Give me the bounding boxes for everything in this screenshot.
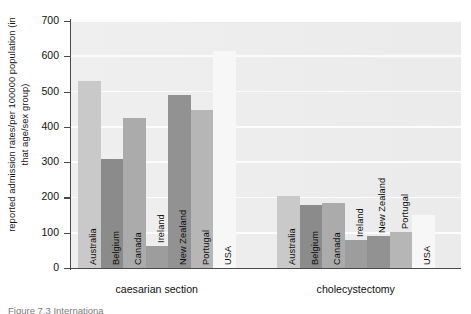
figure-caption: Figure 7.3 Internationa: [8, 305, 104, 314]
bar[interactable]: [101, 159, 124, 268]
bar-category-label: New Zealand: [377, 178, 387, 233]
bar[interactable]: [322, 203, 345, 268]
group-label-caesarian-section: caesarian section: [57, 283, 257, 295]
x-axis-line: [70, 268, 461, 269]
bar[interactable]: [191, 110, 214, 268]
gridline: [71, 20, 461, 22]
group-label-cholecystectomy: cholecystectomy: [256, 283, 456, 295]
y-axis-tick-label: 100: [19, 226, 59, 238]
bar[interactable]: [123, 118, 146, 268]
y-axis-tick-label: 400: [19, 120, 59, 132]
bar-category-label: Portugal: [400, 194, 410, 229]
y-axis-tick: [64, 21, 70, 22]
plot-area: AustraliaBelgiumCanadaIrelandNew Zealand…: [71, 21, 461, 268]
y-axis-tick: [64, 92, 70, 93]
y-axis-tick: [64, 162, 70, 163]
y-axis-tick: [64, 127, 70, 128]
figure-container: reported admission rates/per 100000 popu…: [0, 0, 471, 314]
y-axis-line: [70, 19, 71, 270]
bar[interactable]: [390, 232, 413, 268]
bar[interactable]: [300, 205, 323, 268]
gridline: [71, 91, 461, 93]
y-axis-tick: [64, 233, 70, 234]
y-axis-tick-label: 0: [19, 261, 59, 273]
bar[interactable]: [412, 215, 435, 268]
y-axis-tick: [64, 197, 70, 198]
y-axis-tick-label: 500: [19, 85, 59, 97]
bar[interactable]: [213, 51, 236, 268]
bar[interactable]: [146, 246, 169, 268]
y-axis-tick-label: 300: [19, 155, 59, 167]
bar[interactable]: [367, 236, 390, 268]
bar[interactable]: [345, 240, 368, 268]
bar[interactable]: [78, 81, 101, 268]
bar-category-label: Ireland: [156, 214, 166, 243]
bar[interactable]: [277, 196, 300, 268]
y-axis-tick-label: 600: [19, 49, 59, 61]
y-axis-tick: [64, 56, 70, 57]
y-axis-tick: [64, 268, 70, 269]
y-axis-tick-label: 200: [19, 190, 59, 202]
bar[interactable]: [168, 95, 191, 268]
gridline: [71, 55, 461, 57]
y-axis-tick-label: 700: [19, 14, 59, 26]
